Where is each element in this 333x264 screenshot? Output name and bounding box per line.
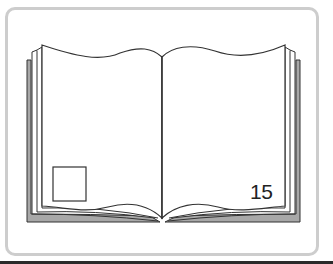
page-number: 15 [250,180,272,204]
square-box [53,167,86,201]
open-book-icon [0,0,333,264]
